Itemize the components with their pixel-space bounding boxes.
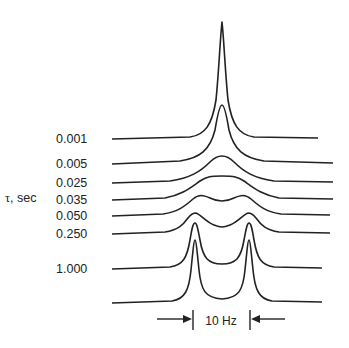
trace-0005 xyxy=(112,105,333,164)
arrow-left-icon xyxy=(251,315,260,323)
nmr-exchange-diagram: τ, sec 0.001 0.005 0.025 0.035 0.050 0.2… xyxy=(0,0,349,348)
trace-0250 xyxy=(112,213,330,234)
trace-bottom xyxy=(112,240,322,303)
trace-0001 xyxy=(112,22,318,139)
trace-1000 xyxy=(112,223,322,269)
scale-marker-label: 10 Hz xyxy=(191,314,251,328)
trace-0035 xyxy=(112,176,333,200)
trace-0025 xyxy=(112,156,333,183)
spectra-traces xyxy=(0,0,349,348)
